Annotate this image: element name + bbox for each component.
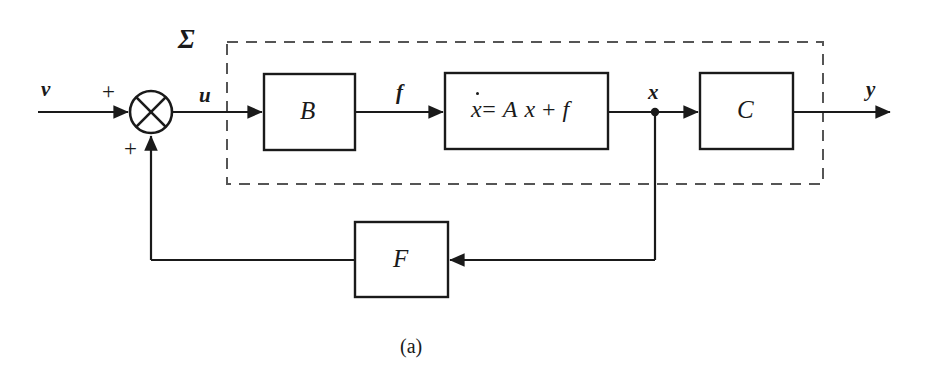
block-label-state-equation: x= A x + f xyxy=(471,97,570,121)
state-eq-plus: + xyxy=(542,96,556,122)
x-dot-glyph: x xyxy=(471,97,482,121)
summing-plus-top: + xyxy=(102,80,115,103)
block-label-b: B xyxy=(300,98,315,123)
signal-label-u: u xyxy=(199,85,211,106)
state-eq-matrix-a: A xyxy=(503,96,518,122)
state-eq-force-f: f xyxy=(563,96,570,122)
figure-canvas: v + + Σ u B f x= A x + f x C y F (a) xyxy=(0,0,925,374)
figure-caption: (a) xyxy=(400,336,422,356)
block-diagram-svg xyxy=(0,0,925,374)
signal-label-y: y xyxy=(866,79,875,100)
summing-plus-bottom: + xyxy=(124,137,137,160)
state-eq-equals: = xyxy=(482,96,496,122)
sigma-system-label: Σ xyxy=(178,26,195,53)
signal-label-x: x xyxy=(648,82,659,103)
signal-label-f: f xyxy=(396,82,403,103)
signal-label-v: v xyxy=(41,79,50,100)
block-label-f: F xyxy=(393,246,408,271)
state-eq-state-x: x xyxy=(524,96,535,122)
block-label-c: C xyxy=(737,97,754,122)
